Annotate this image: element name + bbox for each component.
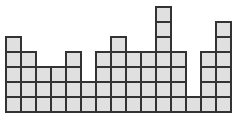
block-cell [215, 36, 232, 53]
block-grid-diagram [0, 0, 241, 117]
block-cell [215, 51, 232, 68]
block-cell [215, 66, 232, 83]
block-cell [170, 51, 187, 68]
block-cell [215, 21, 232, 38]
block-cell [170, 66, 187, 83]
block-cell [155, 21, 172, 38]
block-cell [155, 6, 172, 23]
block-cell [215, 81, 232, 98]
block-cell [65, 51, 82, 68]
block-cell [215, 96, 232, 113]
